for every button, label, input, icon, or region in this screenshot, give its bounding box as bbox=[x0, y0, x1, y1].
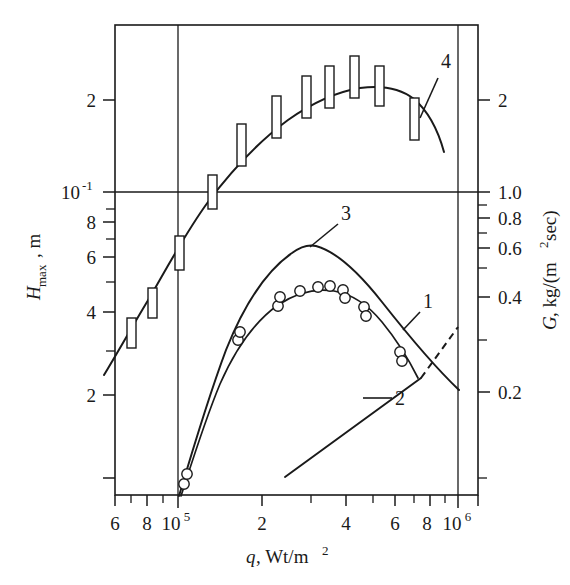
y-left-tick-label-2: 8 bbox=[87, 212, 97, 233]
x-axis-title-symbol: q bbox=[246, 546, 256, 567]
curve-4-leader bbox=[420, 78, 438, 118]
x-axis-title: q , Wt/m 2 bbox=[246, 543, 329, 567]
y-left-tick-label-1: 10 bbox=[61, 182, 80, 203]
y-right-axis-title-unit: , kg/(m bbox=[539, 262, 561, 317]
y-left-axis-title-unit: , m bbox=[23, 234, 44, 259]
curve-label-2: 2 bbox=[395, 387, 405, 409]
x-axis-title-exponent: 2 bbox=[322, 543, 329, 558]
y-left-tick-label-5: 2 bbox=[87, 385, 97, 406]
y-left-tick-label-1-exponent: -1 bbox=[82, 178, 93, 193]
y-left-ticks bbox=[103, 100, 115, 478]
x-tick-label-7: 10 bbox=[443, 513, 462, 534]
curve-1-path bbox=[181, 290, 418, 496]
curve-1-leader bbox=[403, 312, 420, 330]
x-tick-label-1: 8 bbox=[142, 513, 152, 534]
x-tick-label-2-exponent: 5 bbox=[184, 509, 191, 524]
y-left-tick-label-4: 4 bbox=[87, 302, 97, 323]
x-axis-tick-labels: 6 8 10 5 2 4 6 8 10 6 bbox=[110, 509, 472, 534]
x-tick-label-5: 6 bbox=[390, 513, 400, 534]
y-left-axis-title-subscript: max bbox=[34, 264, 49, 287]
curve-3-leader bbox=[310, 224, 338, 247]
x-axis-title-unit: , Wt/m bbox=[256, 546, 309, 567]
x-tick-label-6: 8 bbox=[422, 513, 432, 534]
y-right-ticks bbox=[478, 100, 490, 478]
x-tick-label-7-exponent: 6 bbox=[465, 509, 472, 524]
y-right-tick-label-1: 1.0 bbox=[498, 182, 522, 203]
y-right-tick-label-0: 2 bbox=[498, 90, 508, 111]
y-left-tick-label-0: 2 bbox=[87, 90, 97, 111]
curve-label-3: 3 bbox=[341, 202, 351, 224]
plot-frame bbox=[115, 25, 478, 495]
y-right-tick-label-5: 0.4 bbox=[498, 287, 522, 308]
x-tick-label-2: 10 bbox=[162, 513, 181, 534]
x-tick-label-0: 6 bbox=[110, 513, 120, 534]
y-right-axis-title: G , kg/(m 2 sec) bbox=[536, 210, 561, 330]
y-right-tick-label-7: 0.2 bbox=[498, 382, 522, 403]
curve-label-1: 1 bbox=[423, 290, 433, 312]
x-tick-label-4: 4 bbox=[341, 513, 351, 534]
y-left-axis-title: H max , m bbox=[23, 234, 49, 302]
y-right-tick-labels: 2 1.0 0.8 0.6 0.4 0.2 bbox=[498, 90, 522, 403]
y-left-tick-label-3: 6 bbox=[87, 247, 97, 268]
y-left-tick-labels: 2 10 -1 8 6 4 2 bbox=[61, 90, 97, 406]
y-right-tick-label-3: 0.6 bbox=[498, 238, 522, 259]
x-axis-ticks bbox=[115, 495, 478, 508]
x-tick-label-3: 2 bbox=[257, 513, 267, 534]
y-right-axis-title-tail: sec) bbox=[539, 210, 561, 241]
curve-label-4: 4 bbox=[441, 50, 451, 72]
chart-svg: 6 8 10 5 2 4 6 8 10 6 q , Wt/m 2 2 10 -1… bbox=[0, 0, 570, 585]
y-right-tick-label-2: 0.8 bbox=[498, 208, 522, 229]
y-right-axis-title-symbol: G bbox=[539, 316, 560, 330]
figure-container: 6 8 10 5 2 4 6 8 10 6 q , Wt/m 2 2 10 -1… bbox=[0, 0, 570, 585]
y-right-axis-title-exponent: 2 bbox=[536, 242, 551, 249]
